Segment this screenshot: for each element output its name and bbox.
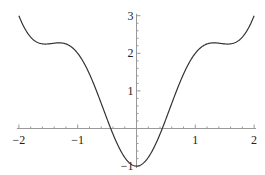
function-plot: −2−112−1123 <box>0 0 265 175</box>
x-tick-label: 1 <box>192 133 198 147</box>
y-tick-label: 1 <box>128 84 134 98</box>
x-tick-label: −1 <box>71 133 84 147</box>
tick-labels: −2−112−1123 <box>13 9 258 173</box>
x-tick-label: −2 <box>13 133 26 147</box>
y-tick-label: 2 <box>128 46 134 60</box>
y-tick-label: 3 <box>128 9 134 23</box>
tick-marks <box>19 16 254 166</box>
x-tick-label: 2 <box>251 133 257 147</box>
